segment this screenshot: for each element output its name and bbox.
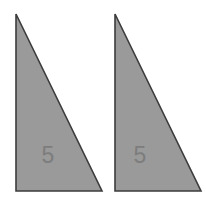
geometry-figure-canvas: 5 5: [0, 0, 206, 206]
left-triangle-label: 5: [42, 142, 55, 168]
right-triangle-label: 5: [134, 142, 147, 168]
